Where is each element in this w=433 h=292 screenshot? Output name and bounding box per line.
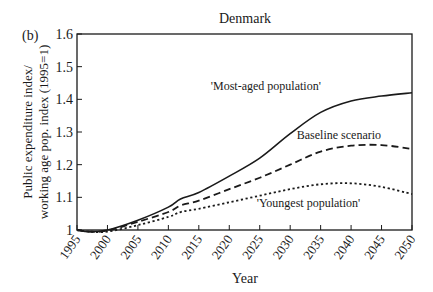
annotation-layer: 'Most-aged population'Baseline scenario'… bbox=[211, 79, 381, 211]
x-tick-label: 2025 bbox=[239, 232, 266, 262]
x-tick-label: 2030 bbox=[269, 232, 296, 262]
series-line-solid bbox=[77, 93, 412, 232]
svg-text:working age pop. index (1995=1: working age pop. index (1995=1) bbox=[36, 45, 51, 220]
x-tick-label: 2050 bbox=[391, 232, 418, 262]
series-layer bbox=[77, 93, 412, 232]
x-axis-label: Year bbox=[232, 271, 258, 286]
x-tick-label: 2020 bbox=[209, 232, 236, 262]
line-chart: Denmark (b) Public expenditure index/ wo… bbox=[0, 0, 433, 292]
y-tick-label: 1.3 bbox=[56, 125, 74, 140]
chart-title: Denmark bbox=[219, 11, 271, 26]
y-tick-label: 1.5 bbox=[56, 60, 74, 75]
y-tick-label: 1.6 bbox=[56, 27, 74, 42]
series-annotation: 'Most-aged population' bbox=[211, 79, 321, 93]
panel-label: (b) bbox=[22, 28, 39, 44]
x-tick-label: 2005 bbox=[117, 232, 144, 262]
y-tick-label: 1.2 bbox=[56, 158, 74, 173]
x-tick-label: 2035 bbox=[300, 232, 327, 262]
y-tick-label: 1.1 bbox=[56, 190, 74, 205]
x-tick-label: 2015 bbox=[178, 232, 205, 262]
series-annotation: Baseline scenario bbox=[297, 128, 381, 142]
y-axis-ticks: 11.11.21.31.41.51.6 bbox=[56, 27, 83, 238]
x-tick-label: 2045 bbox=[361, 232, 388, 262]
y-axis-label: Public expenditure index/ working age po… bbox=[20, 45, 51, 220]
x-tick-label: 2040 bbox=[330, 232, 357, 262]
svg-text:Public expenditure index/: Public expenditure index/ bbox=[20, 65, 35, 199]
x-tick-label: 2010 bbox=[148, 232, 175, 262]
series-line-dashed bbox=[77, 145, 412, 232]
x-tick-label: 1995 bbox=[56, 232, 83, 262]
y-tick-label: 1.4 bbox=[56, 92, 74, 107]
x-tick-label: 2000 bbox=[87, 232, 114, 262]
series-annotation: 'Youngest population' bbox=[257, 196, 360, 210]
